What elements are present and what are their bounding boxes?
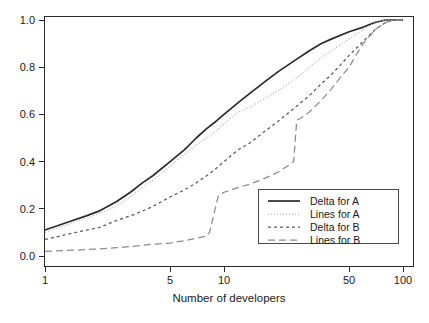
- chart-legend: Delta for ALines for ADelta for BLines f…: [259, 190, 399, 247]
- chart-plot-area: 0.00.20.40.60.81.0 151050100 Number of d…: [0, 0, 429, 323]
- y-tick-label: 0.2: [20, 203, 35, 215]
- x-tick-label: 100: [394, 274, 412, 286]
- y-tick-label: 1.0: [20, 14, 35, 26]
- y-tick-label: 0.8: [20, 61, 35, 73]
- x-axis-ticks: 151050100: [42, 267, 412, 287]
- legend-label-2: Delta for B: [310, 221, 360, 233]
- y-tick-label: 0.4: [20, 156, 35, 168]
- legend-label-0: Delta for A: [310, 195, 359, 207]
- y-tick-label: 0.6: [20, 108, 35, 120]
- x-tick-label: 5: [167, 274, 173, 286]
- y-tick-label: 0.0: [20, 250, 35, 262]
- y-axis-ticks: 0.00.20.40.60.81.0: [20, 14, 45, 262]
- x-tick-label: 50: [343, 274, 355, 286]
- x-tick-label: 10: [218, 274, 230, 286]
- x-tick-label: 1: [42, 274, 48, 286]
- legend-label-1: Lines for A: [310, 208, 360, 220]
- x-axis-title: Number of developers: [172, 292, 285, 304]
- chart-container: 0.00.20.40.60.81.0 151050100 Number of d…: [0, 0, 429, 323]
- legend-label-3: Lines for B: [310, 234, 360, 246]
